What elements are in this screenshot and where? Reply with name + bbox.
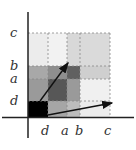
- x-axis-label-b: b: [75, 124, 83, 137]
- grid-cell: [28, 79, 48, 101]
- grid-cell: [28, 66, 48, 79]
- grid-cell: [67, 79, 80, 101]
- grid-cell: [28, 101, 48, 117]
- y-axis-label-d: d: [10, 94, 18, 107]
- y-axis-label-c: c: [10, 26, 17, 39]
- grid-cell: [67, 66, 80, 79]
- grid-cell: [80, 79, 110, 101]
- grid-cell: [28, 33, 48, 66]
- grid-cell: [80, 33, 110, 66]
- shaded-cells: [28, 33, 110, 117]
- grid-cell: [67, 33, 80, 66]
- grid-cell: [80, 101, 110, 117]
- y-axis-label-a: a: [10, 72, 18, 85]
- grid-cell: [48, 79, 67, 101]
- x-axis-label-a: a: [61, 124, 69, 137]
- x-axis-label-c: c: [104, 124, 111, 137]
- grid-cell: [80, 66, 110, 79]
- grid-cell: [48, 33, 67, 66]
- x-axis-label-d: d: [41, 124, 49, 137]
